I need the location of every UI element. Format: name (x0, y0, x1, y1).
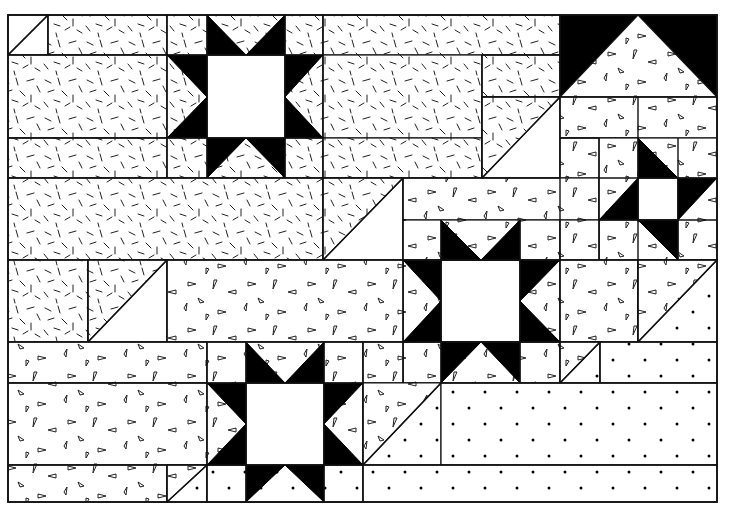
dot-strip-m (363, 465, 717, 502)
dot-block-l (441, 383, 717, 465)
tri-rect-e (560, 220, 599, 260)
tri-block-h (8, 383, 207, 465)
tri-strip-g (8, 342, 207, 383)
dash-square (8, 260, 88, 342)
star3-center (246, 383, 324, 465)
top-strip-1 (48, 15, 167, 55)
dot-strip-k (600, 342, 717, 383)
wide-dash-row (8, 178, 323, 260)
tri-strip-c (403, 178, 599, 220)
left-strip-2 (8, 138, 167, 178)
smallstar-center (638, 178, 678, 220)
tri-strip-i (8, 465, 167, 502)
star3-bottom-row (207, 465, 363, 502)
mid-block-2 (323, 55, 482, 138)
small-rect-a (482, 55, 560, 97)
left-block-1 (8, 55, 167, 138)
tri-strip-j (363, 342, 403, 383)
star2-center (441, 260, 520, 342)
mid-strip-3 (323, 138, 482, 178)
quilt-illustration (0, 0, 734, 515)
tri-rect-f (560, 260, 638, 342)
top-strip-2 (323, 15, 560, 55)
tri-block-d (167, 260, 403, 342)
star1-center (207, 55, 285, 138)
